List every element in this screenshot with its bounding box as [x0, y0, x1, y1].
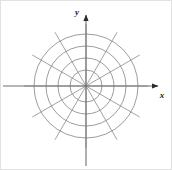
y-axis-label: y — [74, 7, 80, 17]
axes-group — [3, 15, 158, 166]
x-axis-label: x — [159, 90, 165, 100]
polar-grid-figure: x y — [0, 0, 172, 170]
polar-grid-diagram: x y — [1, 1, 172, 170]
